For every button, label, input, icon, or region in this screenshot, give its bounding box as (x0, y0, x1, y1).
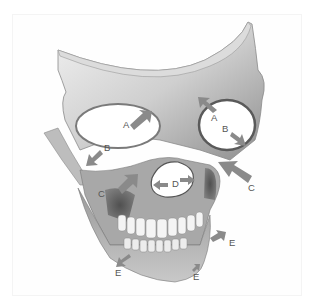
label-e-bottom: E (193, 272, 199, 282)
label-b-right: B (222, 124, 228, 134)
label-d: D (172, 179, 179, 189)
arrow-e-right (210, 230, 226, 242)
orbit-left (76, 104, 160, 148)
label-e-left: E (115, 268, 121, 278)
arrow-c-right (218, 161, 252, 183)
figure-frame: A A B B C C D E E E (0, 0, 313, 304)
label-a-right: A (211, 113, 217, 123)
label-c-left: C (98, 189, 105, 199)
arrow-b-left (86, 150, 103, 166)
label-b-left: B (104, 143, 110, 153)
skull-illustration (0, 0, 313, 304)
label-e-right: E (229, 238, 235, 248)
label-a-left: A (123, 120, 129, 130)
label-c-right: C (248, 183, 255, 193)
